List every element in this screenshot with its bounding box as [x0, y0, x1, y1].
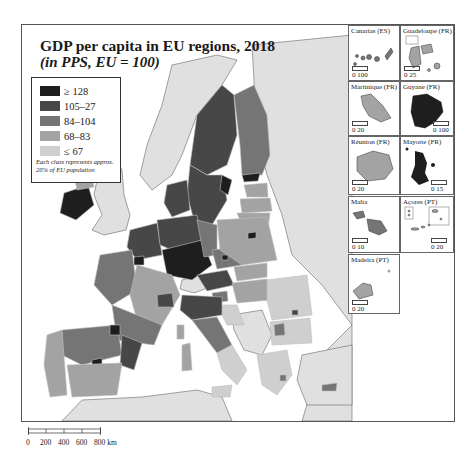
legend-item: ≥ 128 [40, 85, 88, 97]
region-estonia [244, 183, 268, 197]
legend-swatch [40, 86, 60, 96]
region-warsaw [248, 232, 256, 239]
region-bucharest [292, 310, 298, 315]
legend-swatch [40, 131, 60, 141]
inset-guyane: Guyane (FR) 0 100 [400, 81, 454, 136]
scale-tick: 200 [40, 438, 51, 447]
region-sicily [212, 385, 232, 397]
legend-label: ≥ 128 [64, 86, 88, 97]
inset-malta: Malta 0 10 [348, 196, 400, 253]
region-lyon [157, 293, 174, 307]
inset-madeira: Madeira (PT) 0 20 [348, 254, 400, 314]
legend-item: 105–27 [40, 100, 96, 112]
legend-swatch [40, 116, 60, 126]
scale-tick: 800 km [94, 438, 117, 447]
region-latvia [240, 198, 272, 213]
page-header [0, 0, 467, 10]
map-title: GDP per capita in EU regions, 2018 [40, 37, 275, 54]
map-subtitle: (in PPS, EU = 100) [40, 54, 275, 71]
legend-item: 84–104 [40, 115, 96, 127]
inset-scale: 0 20 [431, 238, 447, 251]
inset-guadeloupe: Guadeloupe (FR) 0 25 [400, 25, 454, 81]
inset-canarias: Canarias (ES) 0 100 [348, 25, 400, 81]
inset-scale: 0 20 [352, 180, 368, 193]
inset-reunion: Réunion (FR) 0 20 [348, 136, 400, 195]
legend-label: ≤ 67 [64, 146, 83, 157]
region-romania [267, 275, 312, 320]
legend-item: 68–83 [40, 130, 90, 142]
region-hungary [232, 279, 270, 303]
scale-tick: 400 [58, 438, 69, 447]
legend-item: ≤ 67 [40, 145, 83, 157]
region-corsica [177, 325, 184, 339]
region-italy-north [180, 295, 222, 320]
scale-bar-labels: 0 200 400 600 800 km [28, 438, 138, 448]
region-denmark [164, 180, 190, 217]
scale-tick: 600 [76, 438, 87, 447]
inset-mayotte: Mayotte (FR) 0 15 [400, 136, 454, 195]
legend-label: 68–83 [64, 131, 90, 142]
title-block: GDP per capita in EU regions, 2018 (in P… [40, 37, 275, 71]
inset-scale: 0 15 [431, 180, 447, 193]
region-spain-south [67, 363, 122, 397]
region-greece [257, 350, 292, 395]
legend-swatch [40, 146, 60, 156]
region-paris [134, 256, 144, 265]
region-sofia [274, 323, 285, 336]
choropleth-map: GDP per capita in EU regions, 2018 (in P… [21, 24, 455, 422]
legend-note: Each class represents approx. 20% of EU … [36, 158, 118, 174]
inset-scale: 0 20 [352, 300, 368, 313]
region-athens [280, 375, 286, 381]
inset-scale: 0 100 [352, 66, 368, 79]
legend: ≥ 128 105–27 84–104 68–83 ≤ 67 Each clas… [31, 77, 121, 183]
region-prague [222, 255, 228, 260]
region-sardinia [182, 343, 192, 371]
scale-bar [28, 427, 138, 437]
inset-scale: 0 20 [352, 121, 368, 134]
inset-scale: 0 100 [433, 121, 449, 134]
inset-scale: 0 10 [352, 238, 368, 251]
legend-label: 105–27 [64, 101, 96, 112]
inset-martinique: Martinique (FR) 0 20 [348, 81, 400, 136]
scale-tick: 0 [26, 438, 30, 447]
region-italy-south [217, 345, 247, 385]
legend-swatch [40, 101, 60, 111]
region-basque [110, 325, 120, 335]
inset-scale: 0 25 [404, 66, 420, 79]
inset-acores: Açores (PT) 0 20 [400, 196, 454, 253]
legend-label: 84–104 [64, 116, 96, 127]
